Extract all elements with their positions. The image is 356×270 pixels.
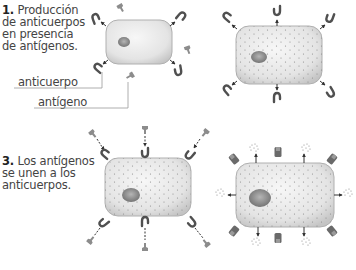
immune-response-diagram xyxy=(0,0,356,270)
antibody-icon xyxy=(100,148,111,158)
antigen-antibody-complex-icon xyxy=(326,153,338,165)
fragments-icon xyxy=(215,188,224,196)
fragments-icon xyxy=(249,143,258,151)
fragments-icon xyxy=(301,143,310,151)
antibody-icon xyxy=(274,6,280,15)
antibody-icon xyxy=(174,66,181,76)
nucleus-icon xyxy=(251,51,267,63)
antigen-icon xyxy=(125,71,135,80)
fragments-icon xyxy=(251,237,260,245)
fragments-icon xyxy=(343,188,352,196)
antigen-icon xyxy=(142,243,148,251)
antibody-icon xyxy=(222,84,232,95)
fragments-icon xyxy=(301,237,310,245)
antibody-icon xyxy=(142,148,148,157)
nucleus-icon xyxy=(118,37,130,47)
antibody-icon xyxy=(176,11,186,22)
cell-4 xyxy=(215,143,352,245)
antigen-icon xyxy=(184,45,192,55)
antigen-icon xyxy=(200,128,210,138)
antibody-icon xyxy=(186,217,196,228)
antibody-icon xyxy=(91,13,100,24)
antigen-icon xyxy=(116,3,125,13)
antigen-antibody-complex-icon xyxy=(228,225,240,237)
antigen-antibody-complex-icon xyxy=(326,225,338,237)
nucleus-icon xyxy=(249,189,271,207)
antibody-icon xyxy=(142,217,148,226)
antigen-icon xyxy=(142,126,148,134)
antigen-icon xyxy=(88,129,98,139)
antigen-icon xyxy=(201,238,211,248)
cell-3 xyxy=(86,126,211,251)
antibody-icon xyxy=(93,62,104,72)
antibody-icon xyxy=(274,93,280,102)
antibody-icon xyxy=(325,87,335,98)
cell-2 xyxy=(222,6,335,102)
antigen-icon xyxy=(86,235,96,245)
antibody-icon xyxy=(184,149,194,160)
antibody-icon xyxy=(325,12,334,23)
antigen-antibody-complex-icon xyxy=(275,233,282,243)
antigen-antibody-complex-icon xyxy=(275,147,282,157)
antigen-leader-line xyxy=(34,82,128,108)
antibody-icon xyxy=(98,217,109,227)
antibody-icon xyxy=(222,11,233,21)
antigen-antibody-complex-icon xyxy=(228,153,240,165)
cell-1 xyxy=(91,3,192,81)
antibody-leader-line xyxy=(14,72,102,88)
nucleus-icon xyxy=(122,188,140,202)
